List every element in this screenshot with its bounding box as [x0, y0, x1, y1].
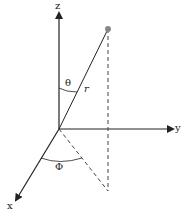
phi-label: Φ — [55, 162, 63, 172]
point-marker — [105, 26, 111, 32]
radius-label: r — [84, 84, 89, 94]
z-axis-label: z — [55, 1, 60, 11]
xy-projection-dashed — [59, 129, 108, 191]
theta-label: θ — [65, 78, 71, 88]
theta-arc — [59, 88, 77, 92]
y-axis-label: y — [175, 123, 181, 133]
x-axis-label: x — [7, 201, 13, 211]
x-axis — [16, 129, 59, 200]
diagram-canvas — [0, 0, 187, 213]
